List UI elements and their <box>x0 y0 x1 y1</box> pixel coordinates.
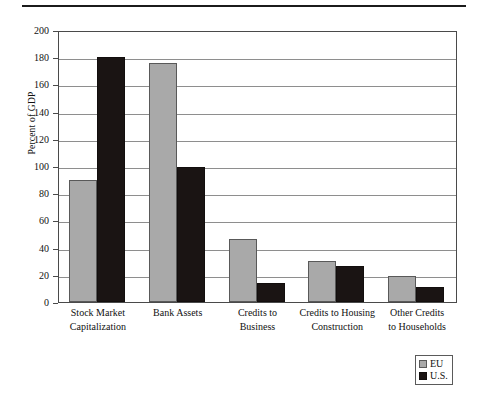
legend-item-us: U.S. <box>419 370 448 382</box>
x-label-line: to Households <box>368 320 466 334</box>
y-tick-label: 200 <box>15 26 49 36</box>
bar-chart-figure: Percent of GDP 0204060801001201401601802… <box>0 0 483 398</box>
bar-eu <box>69 180 97 302</box>
y-tick-label: 120 <box>15 135 49 145</box>
legend-item-eu: EU <box>419 358 448 370</box>
x-label-line: Capitalization <box>49 320 147 334</box>
bar-us <box>97 57 125 302</box>
y-tick-label: 0 <box>15 298 49 308</box>
bar-eu <box>388 276 416 302</box>
y-tick-label: 60 <box>15 216 49 226</box>
legend-swatch-us-icon <box>419 372 427 380</box>
y-tick-label: 160 <box>15 80 49 90</box>
bar-us <box>257 283 285 302</box>
y-tick-label: 100 <box>15 162 49 172</box>
legend-label-us: U.S. <box>430 371 448 381</box>
y-tick-label: 80 <box>15 189 49 199</box>
y-tick-label: 40 <box>15 244 49 254</box>
legend-label-eu: EU <box>430 359 443 369</box>
y-axis-ticks: 020406080100120140160180200 <box>0 31 58 303</box>
chart-legend: EU U.S. <box>415 355 453 385</box>
figure-top-rule <box>22 5 466 7</box>
bar-us <box>177 167 205 302</box>
x-axis-label: Other Creditsto Households <box>368 306 466 333</box>
bar-us <box>336 266 364 302</box>
bar-eu <box>149 63 177 302</box>
bar-eu <box>308 261 336 302</box>
bar-us <box>416 287 444 302</box>
plot-area <box>58 31 457 303</box>
y-tick-label: 20 <box>15 271 49 281</box>
x-axis-category-labels: Stock MarketCapitalizationBank AssetsCre… <box>58 306 457 350</box>
legend-swatch-eu-icon <box>419 360 427 368</box>
bar-eu <box>229 239 257 302</box>
y-tick-mark <box>53 303 58 304</box>
x-label-line: Other Credits <box>368 306 466 320</box>
y-tick-label: 180 <box>15 53 49 63</box>
y-tick-label: 140 <box>15 108 49 118</box>
